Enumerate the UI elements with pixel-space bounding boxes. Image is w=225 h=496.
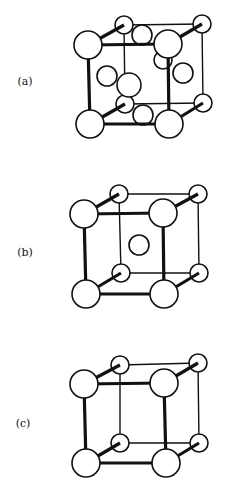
atom-front-bottom-left [72, 280, 100, 308]
panel-b: (b) [17, 185, 208, 308]
edge-back-top [120, 363, 198, 365]
atom-front-face [117, 73, 141, 97]
edge-back-bottom [125, 103, 203, 104]
atom-front-bottom-right [152, 449, 180, 477]
atom-left-face [97, 66, 117, 86]
panel-label-c: (c) [16, 417, 31, 430]
atom-front-bottom-right [150, 280, 178, 308]
atom-bottom-face [133, 105, 153, 125]
atom-body-center [129, 235, 149, 255]
atom-front-top-left [70, 370, 98, 398]
crystal-lattice-diagram: (a)(b)(c) [0, 0, 225, 496]
edge-back-right [202, 24, 203, 103]
panel-label-a: (a) [17, 75, 32, 88]
panel-c: (c) [16, 354, 208, 477]
atom-front-top-right [149, 199, 177, 227]
atom-front-bottom-right [155, 110, 183, 138]
atom-front-top-right [150, 369, 178, 397]
panel-label-b: (b) [17, 246, 33, 259]
edge-back-top [124, 24, 202, 25]
atom-right-face [173, 63, 193, 83]
edge-back-right [198, 363, 199, 443]
atom-top-face [132, 25, 152, 45]
edge-back-left [119, 194, 121, 273]
atom-front-top-left [74, 31, 102, 59]
atom-front-top-right [154, 30, 182, 58]
atom-front-bottom-left [76, 110, 104, 138]
atom-front-bottom-left [72, 449, 100, 477]
panel-a: (a) [17, 15, 212, 138]
edge-back-right [198, 194, 199, 273]
atom-front-top-left [70, 200, 98, 228]
